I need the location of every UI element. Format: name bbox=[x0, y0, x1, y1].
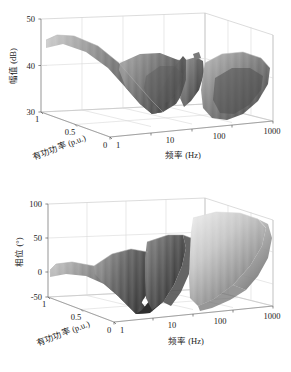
magnitude-x-tick-1000: 1000 bbox=[264, 126, 281, 136]
phase-plot-svg: 100 50 0 -50 1 0.5 0 1 10 100 1000 相位 (°… bbox=[0, 186, 291, 372]
magnitude-x-tick-1: 1 bbox=[116, 140, 120, 150]
phase-z-tick-50: 50 bbox=[34, 233, 43, 243]
phase-x-axis-title: 频率 (Hz) bbox=[168, 336, 204, 346]
phase-figure: 100 50 0 -50 1 0.5 0 1 10 100 1000 相位 (°… bbox=[0, 186, 291, 372]
phase-z-tick-neg50: -50 bbox=[31, 292, 42, 302]
magnitude-z-axis-title: 幅值 (dB) bbox=[8, 48, 18, 84]
phase-y-axis-title: 有功功率 (p.u.) bbox=[35, 318, 92, 348]
phase-x-tick-1000: 1000 bbox=[264, 311, 281, 321]
magnitude-y-tick-1: 1 bbox=[35, 114, 39, 124]
phase-x-tick-1: 1 bbox=[120, 325, 124, 335]
magnitude-y-axis-title: 有功功率 (p.u.) bbox=[31, 132, 88, 162]
magnitude-x-axis-title: 频率 (Hz) bbox=[165, 150, 201, 160]
phase-z-tick-100: 100 bbox=[29, 199, 42, 209]
phase-surface-mesh bbox=[50, 212, 272, 314]
magnitude-z-tick-40: 40 bbox=[27, 61, 36, 71]
phase-x-tick-10: 10 bbox=[168, 320, 177, 330]
magnitude-y-tick-0: 0 bbox=[103, 140, 107, 150]
magnitude-z-tick-30: 30 bbox=[27, 107, 36, 117]
magnitude-surface-mesh bbox=[46, 35, 270, 120]
phase-x-tick-100: 100 bbox=[214, 316, 227, 326]
magnitude-x-tick-10: 10 bbox=[166, 135, 175, 145]
magnitude-z-tick-50: 50 bbox=[27, 14, 36, 24]
magnitude-plot-svg: 50 40 30 1 0.5 0 1 10 100 1000 幅值 (dB) 有… bbox=[0, 0, 291, 186]
phase-z-axis-title: 相位 (°) bbox=[14, 237, 24, 266]
magnitude-x-tick-100: 100 bbox=[213, 131, 226, 141]
phase-y-tick-0: 0 bbox=[107, 325, 111, 335]
phase-z-tick-0: 0 bbox=[38, 267, 42, 277]
phase-y-tick-1: 1 bbox=[42, 299, 46, 309]
magnitude-figure: 50 40 30 1 0.5 0 1 10 100 1000 幅值 (dB) 有… bbox=[0, 0, 291, 186]
